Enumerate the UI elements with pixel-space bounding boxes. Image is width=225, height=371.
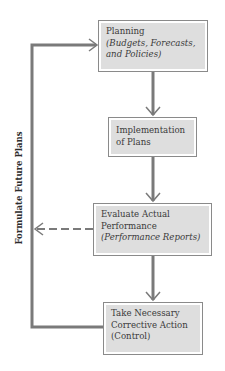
corrective-title-1: Take Necessary [111, 308, 195, 320]
planning-box: Planning (Budgets, Forecasts, and Polici… [98, 20, 208, 72]
corrective-subtitle: (Control) [111, 331, 195, 343]
corrective-title-2: Corrective Action [111, 320, 195, 332]
implementation-box: Implementation of Plans [108, 117, 197, 157]
implementation-title: Implementation [116, 125, 189, 137]
evaluate-box: Evaluate Actual Performance (Performance… [93, 203, 212, 256]
corrective-action-box: Take Necessary Corrective Action (Contro… [103, 302, 203, 355]
evaluate-title-2: Performance [101, 221, 204, 233]
evaluate-title-1: Evaluate Actual [101, 209, 204, 221]
evaluate-subtitle: (Performance Reports) [101, 232, 204, 244]
formulate-future-plans-label: Formulate Future Plans [14, 131, 24, 244]
planning-title: Planning [106, 26, 200, 38]
planning-subtitle-2: and Policies) [106, 49, 200, 61]
feedback-loop-line [32, 45, 103, 327]
planning-subtitle-1: (Budgets, Forecasts, [106, 38, 200, 50]
implementation-subtitle: of Plans [116, 137, 189, 149]
